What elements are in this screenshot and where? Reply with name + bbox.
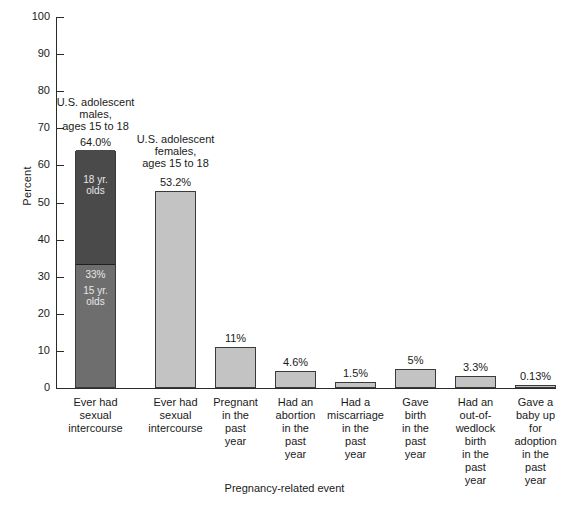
y-tick-label: 60 — [20, 159, 50, 170]
y-tick-label-wrap: 10 — [16, 351, 50, 352]
segment-label: 18 yr. olds — [76, 174, 115, 196]
y-tick-label-wrap: 90 — [16, 54, 50, 55]
y-tick-label-wrap: 40 — [16, 240, 50, 241]
category-label: Gave a baby up for adoption in the past … — [502, 396, 569, 487]
category-label: Gave birth in the past year — [382, 396, 449, 461]
category-label: Had an out-of- wedlock birth in the past… — [442, 396, 509, 487]
y-tick-label: 0 — [20, 382, 50, 393]
bar-value-label: 4.6% — [263, 356, 328, 368]
y-tick-label: 30 — [20, 271, 50, 282]
y-axis-title: Percent — [21, 141, 33, 231]
y-tick-label: 20 — [20, 308, 50, 319]
y-tick-label: 100 — [20, 11, 50, 22]
category-label: Had an abortion in the past year — [262, 396, 329, 461]
bar — [395, 369, 436, 388]
bar-value-label: 3.3% — [443, 361, 508, 373]
y-tick-label-wrap: 20 — [16, 314, 50, 315]
category-label: Had a miscarriage in the past year — [322, 396, 389, 461]
bar — [155, 191, 196, 388]
bar-value-label: 5% — [383, 354, 448, 366]
x-axis-title: Pregnancy-related event — [0, 482, 569, 494]
bar — [515, 385, 556, 388]
bar-value-label: 53.2% — [143, 176, 208, 188]
bar — [215, 347, 256, 388]
segment-label: 15 yr. olds — [76, 285, 115, 307]
y-tick-label-wrap: 100 — [16, 17, 50, 18]
category-label: Pregnant in the past year — [202, 396, 269, 448]
bar — [335, 382, 376, 388]
y-tick-label: 40 — [20, 234, 50, 245]
y-tick-label: 80 — [20, 85, 50, 96]
category-label: Ever had sexual intercourse — [62, 396, 129, 435]
plot-area: 18 yr. olds33%15 yr. olds — [56, 17, 556, 388]
group-annotation: U.S. adolescent females, ages 15 to 18 — [115, 133, 236, 169]
x-axis-line — [56, 388, 556, 389]
bar-segment: 18 yr. olds — [76, 150, 115, 265]
y-tick-label: 50 — [20, 197, 50, 208]
bar-chart: Percent 1009080706050403020100 18 yr. ol… — [0, 0, 569, 506]
bar — [275, 371, 316, 388]
bar — [455, 376, 496, 388]
y-tick-label-wrap: 60 — [16, 165, 50, 166]
bar-value-label: 0.13% — [503, 370, 568, 382]
bar-value-label: 1.5% — [323, 367, 388, 379]
bar: 18 yr. olds33%15 yr. olds — [75, 151, 116, 388]
segment-value-label: 33% — [76, 269, 115, 280]
bar-value-label: 11% — [203, 332, 268, 344]
y-tick-label-wrap: 0 — [16, 388, 50, 389]
y-tick-label-wrap: 80 — [16, 91, 50, 92]
y-tick-label: 10 — [20, 345, 50, 356]
y-tick-label-wrap: 30 — [16, 277, 50, 278]
y-tick-mark — [56, 388, 64, 389]
bar-segment: 33%15 yr. olds — [76, 265, 115, 387]
category-label: Ever had sexual intercourse — [142, 396, 209, 435]
y-tick-label-wrap: 50 — [16, 203, 50, 204]
y-tick-label: 90 — [20, 48, 50, 59]
group-annotation: U.S. adolescent males, ages 15 to 18 — [35, 96, 156, 132]
